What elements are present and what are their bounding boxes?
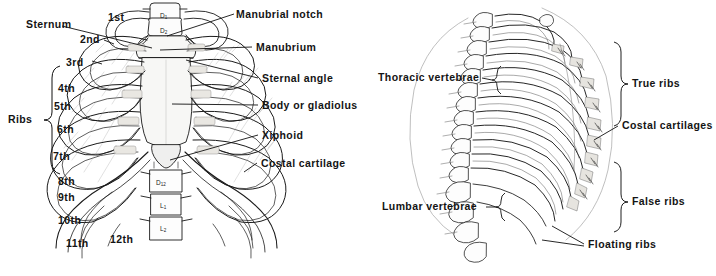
label-vertebra-d12: D12: [156, 177, 166, 189]
vertebra-body: D: [160, 12, 165, 19]
label-true-ribs: True ribs: [632, 78, 680, 89]
label-rib-7th: 7th: [53, 151, 70, 162]
label-manubrial-notch: Manubrial notch: [236, 9, 323, 20]
panel-lateral-view: Thoracic vertebrae Lumbar vertebrae True…: [356, 0, 716, 276]
lateral-thorax-illustration: [356, 0, 716, 276]
label-manubrium: Manubrium: [256, 42, 316, 53]
label-rib-9th: 9th: [58, 192, 75, 203]
label-floating-ribs: Floating ribs: [588, 239, 656, 250]
label-rib-11th: 11th: [66, 238, 89, 249]
vertebra-index: 2: [164, 228, 167, 233]
label-rib-8th: 8th: [58, 176, 75, 187]
vertebra-body: D: [156, 179, 161, 186]
label-vertebra-d1: D1: [160, 10, 167, 22]
label-rib-2nd: 2nd: [80, 34, 100, 45]
label-rib-3rd: 3rd: [66, 57, 84, 68]
label-false-ribs: False ribs: [632, 196, 685, 207]
label-vertebra-l1: L1: [160, 200, 166, 212]
label-thoracic-vertebrae: Thoracic vertebrae: [378, 72, 479, 83]
label-rib-6th: 6th: [57, 124, 74, 135]
label-rib-10th: 10th: [58, 215, 81, 226]
label-sternal-angle: Sternal angle: [262, 73, 333, 84]
label-costal-cartilage: Costal cartilage: [261, 158, 346, 169]
vertebra-index: 1: [165, 15, 168, 20]
anatomy-figure: 1st Sternum 2nd 3rd 4th 5th 6th 7th 8th …: [0, 0, 716, 276]
vertebra-body: D: [160, 27, 165, 34]
label-vertebra-l2: L2: [160, 223, 166, 235]
vertebra-index: 12: [161, 182, 166, 187]
label-rib-4th: 4th: [58, 83, 75, 94]
label-rib-1st: 1st: [108, 12, 124, 23]
label-rib-5th: 5th: [54, 101, 71, 112]
vertebra-index: 1: [164, 205, 167, 210]
label-body-or-gladiolus: Body or gladiolus: [262, 100, 357, 111]
label-xiphoid: Xiphoid: [262, 130, 303, 141]
label-rib-12th: 12th: [110, 234, 133, 245]
label-lumbar-vertebrae: Lumbar vertebrae: [382, 201, 477, 212]
label-costal-cartilages: Costal cartilages: [622, 120, 713, 131]
vertebra-index: 2: [165, 30, 168, 35]
label-ribs-group: Ribs: [8, 114, 32, 125]
panel-anterior-view: 1st Sternum 2nd 3rd 4th 5th 6th 7th 8th …: [0, 0, 356, 276]
label-vertebra-d2: D2: [160, 25, 167, 37]
label-sternum: Sternum: [26, 19, 71, 30]
